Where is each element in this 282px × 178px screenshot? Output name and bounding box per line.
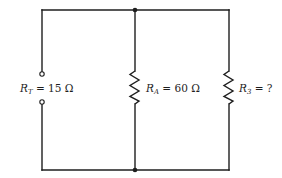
label-r3-symbol: R (239, 82, 247, 94)
label-r3-value: ? (267, 82, 273, 94)
resistor-ra-icon (130, 71, 139, 104)
junction-top-icon (133, 8, 138, 13)
label-r3-equals: = (251, 82, 266, 94)
label-ra: RA = 60 Ω (146, 82, 200, 94)
label-r3: R3 = ? (239, 82, 273, 94)
label-rt-value: 15 Ω (48, 82, 73, 94)
terminal-top-icon (40, 72, 44, 76)
resistor-r3-icon (224, 71, 233, 104)
label-ra-equals: = (159, 82, 174, 94)
label-rt: RT = 15 Ω (20, 82, 73, 94)
label-ra-symbol: R (146, 82, 154, 94)
label-rt-equals: = (33, 82, 48, 94)
label-rt-symbol: R (20, 82, 28, 94)
terminal-bottom-icon (40, 100, 44, 104)
junction-bottom-icon (133, 168, 138, 173)
label-ra-value: 60 Ω (174, 82, 199, 94)
